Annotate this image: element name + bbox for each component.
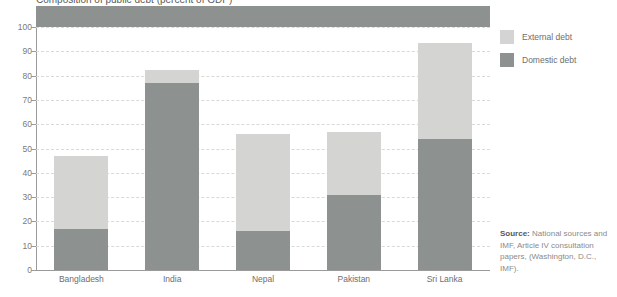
figure-container: Composition of public debt (percent of G… [0, 0, 617, 297]
bar-group[interactable] [54, 27, 108, 270]
bar-segment-external-debt[interactable] [54, 156, 108, 229]
bar-segment-domestic-debt[interactable] [418, 139, 472, 270]
bar-segment-domestic-debt[interactable] [327, 195, 381, 270]
legend-label-domestic: Domestic debt [522, 55, 576, 65]
y-axis-tick [31, 76, 36, 77]
x-axis-label-pakistan: Pakistan [309, 274, 399, 284]
x-axis-label-sri-lanka: Sri Lanka [400, 274, 490, 284]
legend: External debtDomestic debt [500, 30, 615, 76]
legend-item-external[interactable]: External debt [500, 30, 615, 44]
legend-swatch-domestic [500, 53, 514, 67]
y-axis-tick [31, 173, 36, 174]
x-axis-label-india: India [127, 274, 217, 284]
bar-group[interactable] [236, 27, 290, 270]
bar-segment-external-debt[interactable] [327, 132, 381, 195]
y-axis-labels: 0102030405060708090100 [0, 27, 32, 271]
legend-item-domestic[interactable]: Domestic debt [500, 53, 615, 67]
y-axis-tick [31, 246, 36, 247]
bar-segment-external-debt[interactable] [236, 134, 290, 231]
bar-group[interactable] [327, 27, 381, 270]
bar-group[interactable] [145, 27, 199, 270]
x-axis-label-bangladesh: Bangladesh [36, 274, 126, 284]
bar-segment-external-debt[interactable] [418, 43, 472, 139]
chart-title-text: Composition of public debt (percent of G… [36, 0, 490, 5]
y-axis-tick [31, 51, 36, 52]
y-axis-tick [31, 197, 36, 198]
plot-area [36, 27, 490, 270]
x-axis-label-nepal: Nepal [218, 274, 308, 284]
x-axis-line [36, 270, 490, 271]
source-note: Source: National sources and IMF, Articl… [500, 228, 612, 274]
y-axis-tick [31, 270, 36, 271]
bar-segment-domestic-debt[interactable] [236, 231, 290, 270]
y-axis-tick [31, 149, 36, 150]
bar-segment-domestic-debt[interactable] [145, 83, 199, 270]
legend-swatch-external [500, 30, 514, 44]
source-label: Source: [500, 229, 530, 238]
bar-group[interactable] [418, 27, 472, 270]
y-axis-tick-label: 100 [18, 23, 32, 32]
title-banner [36, 6, 490, 27]
x-axis-labels: BangladeshIndiaNepalPakistanSri Lanka [36, 274, 490, 290]
bar-segment-external-debt[interactable] [145, 70, 199, 83]
bar-segment-domestic-debt[interactable] [54, 229, 108, 270]
y-axis-tick [31, 100, 36, 101]
y-axis-tick [31, 221, 36, 222]
legend-label-external: External debt [522, 32, 572, 42]
y-axis-tick [31, 27, 36, 28]
y-axis-tick [31, 124, 36, 125]
